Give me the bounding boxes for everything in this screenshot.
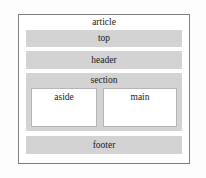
section-band-label: section [26,75,182,86]
footer-band-label: footer [26,140,182,151]
article-label: article [19,16,189,28]
main-box-label: main [104,92,176,103]
aside-box: aside [31,88,97,127]
section-band: section aside main [26,73,182,131]
top-band: top [26,30,182,47]
main-box: main [103,88,177,127]
aside-box-label: aside [32,92,96,103]
header-band: header [26,51,182,69]
diagram-canvas: article top header section aside main fo… [0,0,206,178]
top-band-label: top [26,33,182,44]
header-band-label: header [26,55,182,66]
article-container: article top header section aside main fo… [18,14,190,164]
footer-band: footer [26,136,182,154]
